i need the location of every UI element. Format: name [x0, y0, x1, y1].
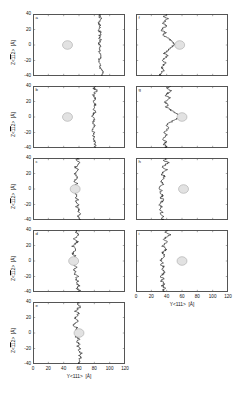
- trace-line-i: [160, 230, 171, 292]
- y-tick-label: 0: [17, 186, 31, 191]
- x-tick-label: 60: [72, 366, 86, 371]
- x-tick-label: 80: [190, 294, 204, 299]
- plot-panel-c: c: [33, 158, 125, 220]
- plot-panel-i: i: [136, 230, 228, 292]
- y-tick-label: 20: [17, 27, 31, 32]
- panel-label-h: h: [139, 159, 141, 164]
- plot-canvas-d: [33, 230, 125, 292]
- marker-circle-d: [69, 257, 79, 266]
- panel-label-i: i: [139, 231, 140, 236]
- y-axis-title: Z<112> [Å]: [11, 256, 17, 281]
- marker-circle-i: [177, 257, 187, 266]
- plot-panel-g: g: [136, 86, 228, 148]
- plot-canvas-a: [33, 14, 125, 76]
- y-tick-label: 20: [17, 99, 31, 104]
- y-tick-label: 40: [17, 11, 31, 16]
- plot-panel-e: e: [33, 302, 125, 364]
- trace-line-a: [98, 14, 103, 76]
- figure-panel-grid: a40200-20-40Z<112> [Å]b40200-20-40Z<112>…: [0, 0, 243, 410]
- x-tick-label: 0: [26, 366, 40, 371]
- panel-label-a: a: [36, 15, 38, 20]
- tick-marks-a: [33, 14, 125, 76]
- y-tick-label: 0: [17, 42, 31, 47]
- x-tick-label: 0: [129, 294, 143, 299]
- x-tick-label: 20: [41, 366, 55, 371]
- y-tick-label: -20: [17, 130, 31, 135]
- y-tick-label: -40: [17, 289, 31, 294]
- plot-panel-a: a: [33, 14, 125, 76]
- plot-canvas-e: [33, 302, 125, 364]
- marker-circle-g: [177, 113, 187, 122]
- x-tick-label: 120: [221, 294, 235, 299]
- panel-label-f: f: [139, 15, 140, 20]
- plot-canvas-b: [33, 86, 125, 148]
- tick-marks-d: [33, 230, 125, 292]
- x-tick-label: 100: [103, 366, 117, 371]
- x-tick-label: 60: [175, 294, 189, 299]
- x-tick-label: 40: [160, 294, 174, 299]
- plot-panel-d: d: [33, 230, 125, 292]
- x-tick-label: 120: [118, 366, 132, 371]
- y-tick-label: -20: [17, 58, 31, 63]
- panel-label-b: b: [36, 87, 38, 92]
- x-tick-label: 80: [87, 366, 101, 371]
- marker-circle-f: [175, 41, 185, 50]
- x-axis-title-right: Y<111> [Å]: [136, 302, 228, 308]
- y-tick-label: -20: [17, 346, 31, 351]
- plot-canvas-i: [136, 230, 228, 292]
- panel-label-g: g: [139, 87, 141, 92]
- plot-panel-b: b: [33, 86, 125, 148]
- panel-label-e: e: [36, 303, 38, 308]
- tick-marks-b: [33, 86, 125, 148]
- y-tick-label: 20: [17, 171, 31, 176]
- y-axis-title: Z<112> [Å]: [11, 328, 17, 353]
- plot-canvas-h: [136, 158, 228, 220]
- y-tick-label: -40: [17, 145, 31, 150]
- y-tick-label: 40: [17, 227, 31, 232]
- y-tick-label: 0: [17, 330, 31, 335]
- plot-panel-f: f: [136, 14, 228, 76]
- x-tick-label: 40: [57, 366, 71, 371]
- panel-label-d: d: [36, 231, 38, 236]
- y-tick-label: 40: [17, 299, 31, 304]
- x-tick-label: 20: [144, 294, 158, 299]
- y-tick-label: 40: [17, 83, 31, 88]
- y-tick-label: 0: [17, 114, 31, 119]
- marker-circle-a: [63, 41, 73, 50]
- trace-line-h: [159, 158, 170, 220]
- plot-canvas-f: [136, 14, 228, 76]
- trace-line-b: [92, 86, 98, 148]
- y-tick-label: 20: [17, 315, 31, 320]
- y-tick-label: -40: [17, 73, 31, 78]
- marker-circle-h: [179, 185, 189, 194]
- panel-label-c: c: [36, 159, 38, 164]
- y-axis-title: Z<112> [Å]: [11, 184, 17, 209]
- y-axis-title: Z<112> [Å]: [11, 40, 17, 65]
- x-axis-title-left: Y<111> [Å]: [33, 374, 125, 380]
- y-tick-label: 40: [17, 155, 31, 160]
- marker-circle-b: [63, 113, 73, 122]
- marker-circle-c: [70, 185, 80, 194]
- marker-circle-e: [74, 329, 84, 338]
- plot-panel-h: h: [136, 158, 228, 220]
- y-tick-label: 0: [17, 258, 31, 263]
- x-tick-label: 100: [206, 294, 220, 299]
- y-axis-title: Z<112> [Å]: [11, 112, 17, 137]
- plot-canvas-c: [33, 158, 125, 220]
- y-tick-label: -20: [17, 274, 31, 279]
- plot-canvas-g: [136, 86, 228, 148]
- trace-line-f: [159, 14, 175, 76]
- y-tick-label: -40: [17, 217, 31, 222]
- y-tick-label: 20: [17, 243, 31, 248]
- y-tick-label: -20: [17, 202, 31, 207]
